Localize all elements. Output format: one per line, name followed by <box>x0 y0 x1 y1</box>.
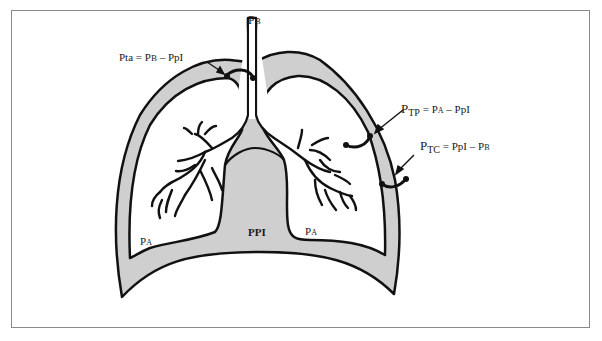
transchest-label: PTC = PpI – PB <box>420 138 489 155</box>
transairway-label: Pta = PB – PpI <box>119 51 184 63</box>
lung-diagram: PB Pta = PB – PpI PTP = PA – PpI PTC = P… <box>0 0 602 341</box>
transpulmonary-label: PTP = PA – PpI <box>401 101 470 118</box>
airway-opening-label: PB <box>248 13 261 27</box>
trachea-lumen <box>249 19 255 119</box>
pleural-pressure-label: PPI <box>248 226 266 238</box>
